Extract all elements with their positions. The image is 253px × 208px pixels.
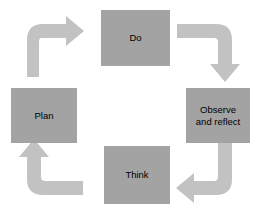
arrow-think-to-plan-icon: [21, 143, 83, 201]
arrow-observe-to-think-icon: [176, 143, 236, 201]
cycle-diagram: Do Observe and reflect Think Plan: [0, 0, 253, 208]
stage-box-plan: Plan: [11, 88, 77, 143]
stage-box-think: Think: [104, 146, 170, 204]
stage-label-think: Think: [125, 169, 148, 181]
stage-label-observe: Observe and reflect: [196, 104, 240, 127]
stage-label-do: Do: [129, 32, 141, 44]
stage-box-observe: Observe and reflect: [186, 88, 250, 143]
arrow-plan-to-do-icon: [26, 22, 86, 77]
stage-label-plan: Plan: [34, 110, 53, 122]
arrow-do-to-observe-icon: [176, 22, 236, 82]
stage-box-do: Do: [101, 10, 170, 66]
